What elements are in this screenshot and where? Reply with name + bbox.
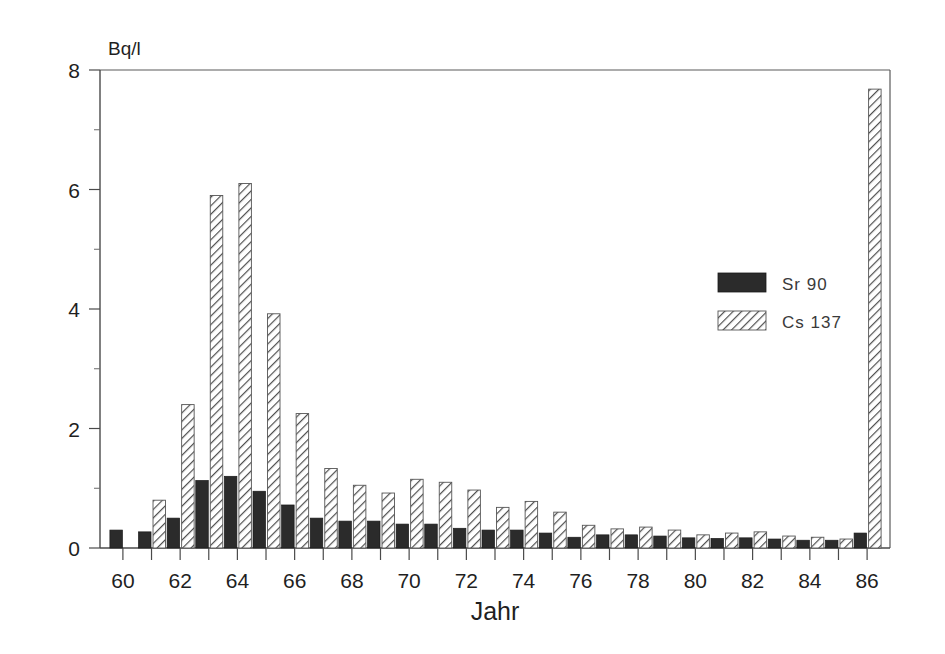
bar-sr90 (596, 535, 609, 548)
bar-sr90 (167, 518, 180, 548)
bar-cs137 (182, 405, 195, 548)
bar-sr90 (711, 538, 724, 548)
bar-cs137 (382, 493, 395, 548)
x-tick-label: 62 (168, 569, 191, 592)
y-tick-label: 8 (68, 59, 80, 82)
bar-sr90 (425, 524, 438, 548)
bar-sr90 (368, 521, 381, 548)
bar-cs137 (840, 539, 853, 548)
bar-cs137 (754, 532, 767, 548)
bar-cs137 (725, 533, 738, 548)
bar-sr90 (825, 540, 838, 548)
x-tick-label: 76 (569, 569, 592, 592)
bar-cs137 (697, 535, 710, 548)
legend-swatch-cs137 (718, 311, 766, 330)
bar-sr90 (568, 537, 581, 548)
y-axis-unit-label: Bq/l (108, 38, 141, 59)
bar-sr90 (339, 521, 352, 548)
y-tick-label: 4 (68, 298, 80, 321)
legend: Sr 90 Cs 137 (718, 273, 842, 332)
bar-cs137 (668, 530, 681, 548)
y-tick-label: 2 (68, 418, 80, 441)
bar-sr90 (139, 532, 152, 548)
bar-sr90 (310, 518, 323, 548)
x-tick-label: 82 (741, 569, 764, 592)
bar-chart-svg: 6062646668707274767880828486 02468 Bq/l … (0, 0, 945, 654)
x-tick-label: 80 (684, 569, 707, 592)
x-tick-label: 74 (512, 569, 536, 592)
bar-cs137 (497, 507, 510, 548)
bar-sr90 (511, 530, 523, 548)
bar-sr90 (539, 533, 552, 548)
x-tick-label: 70 (397, 569, 420, 592)
x-tick-label: 66 (283, 569, 306, 592)
bar-sr90 (224, 476, 237, 548)
bar-cs137 (210, 195, 223, 548)
x-tick-label: 78 (626, 569, 649, 592)
x-tick-label: 64 (226, 569, 250, 592)
bar-cs137 (325, 469, 338, 548)
bar-sr90 (625, 535, 638, 548)
bar-cs137 (353, 485, 366, 548)
y-tick-label: 6 (68, 179, 80, 202)
bars-series-sr90 (110, 476, 867, 548)
bar-cs137 (411, 479, 424, 548)
bar-sr90 (482, 530, 495, 548)
bar-cs137 (640, 527, 653, 548)
bar-sr90 (682, 538, 695, 548)
bar-sr90 (196, 480, 209, 548)
bar-cs137 (439, 482, 452, 548)
bar-sr90 (396, 524, 409, 548)
legend-label-sr90: Sr 90 (782, 275, 828, 294)
legend-swatch-sr90 (718, 273, 766, 292)
bar-sr90 (654, 536, 667, 548)
bar-sr90 (110, 530, 123, 548)
bar-cs137 (468, 490, 481, 548)
y-axis-ticks (89, 70, 100, 548)
bar-cs137 (153, 500, 166, 548)
chart-container: 6062646668707274767880828486 02468 Bq/l … (0, 0, 945, 654)
bar-sr90 (740, 538, 753, 548)
bar-cs137 (554, 512, 567, 548)
bar-sr90 (253, 491, 266, 548)
x-tick-label: 60 (111, 569, 134, 592)
bar-cs137 (296, 414, 309, 548)
bar-cs137 (869, 89, 882, 548)
x-axis-title: Jahr (471, 597, 520, 625)
x-tick-label: 68 (340, 569, 363, 592)
bars-series-cs137 (153, 89, 881, 548)
bar-cs137 (268, 314, 281, 548)
bar-sr90 (768, 539, 781, 548)
x-tick-label: 84 (798, 569, 822, 592)
x-tick-label: 86 (855, 569, 878, 592)
bar-sr90 (797, 540, 810, 548)
x-axis-tick-labels: 6062646668707274767880828486 (111, 569, 879, 592)
x-axis-ticks (123, 548, 867, 560)
bar-cs137 (811, 537, 824, 548)
bar-cs137 (783, 536, 796, 548)
x-tick-label: 72 (455, 569, 478, 592)
bar-sr90 (453, 528, 466, 548)
bar-cs137 (525, 501, 538, 548)
legend-label-cs137: Cs 137 (782, 313, 842, 332)
bar-cs137 (239, 184, 252, 548)
y-axis-tick-labels: 02468 (68, 59, 80, 560)
y-tick-label: 0 (68, 537, 80, 560)
bar-sr90 (854, 533, 867, 548)
bar-cs137 (611, 529, 624, 548)
bar-cs137 (582, 525, 595, 548)
bar-sr90 (282, 505, 295, 548)
